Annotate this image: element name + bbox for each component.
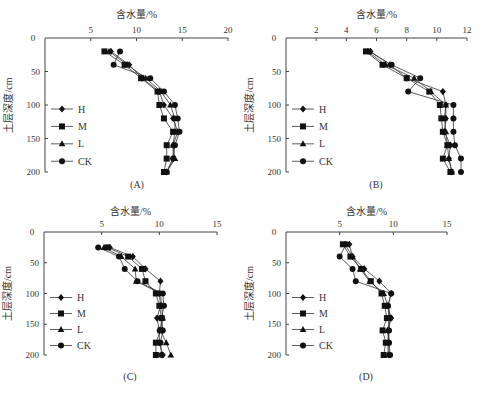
legend-item-m: M	[50, 308, 86, 319]
y-tick-label: 150	[268, 319, 282, 329]
x-axis-title: 含水量/%	[356, 8, 397, 20]
svg-text:H: H	[78, 104, 85, 115]
chart-panel-b: 02468101250100150200含水量/%土层深度/cmHMLCK(B)	[243, 8, 472, 191]
svg-text:L: L	[319, 324, 325, 335]
x-tick-label: 12	[463, 25, 472, 35]
svg-text:L: L	[78, 138, 84, 149]
series-markers-l	[106, 48, 178, 175]
legend-item-h: H	[51, 104, 85, 115]
y-tick-label: 100	[26, 289, 40, 299]
y-tick-label: 50	[31, 67, 41, 77]
svg-text:M: M	[77, 308, 86, 319]
series-line-m	[105, 51, 174, 172]
y-tick-label: 200	[27, 167, 41, 177]
legend-item-l: L	[292, 138, 325, 149]
legend-item-ck: CK	[51, 156, 93, 167]
series-line-m	[107, 247, 161, 355]
svg-text:0: 0	[30, 227, 35, 237]
y-tick-label: 50	[272, 67, 282, 77]
panel-label: (C)	[123, 371, 136, 383]
x-tick-label: 6	[374, 25, 379, 35]
svg-text:H: H	[319, 104, 326, 115]
y-tick-label: 50	[30, 258, 40, 268]
x-tick-label: 5	[89, 25, 94, 35]
svg-text:M: M	[78, 121, 87, 132]
svg-text:H: H	[319, 292, 326, 303]
y-tick-label: 200	[268, 350, 282, 360]
svg-text:M: M	[319, 308, 328, 319]
legend-item-ck: CK	[50, 340, 92, 351]
svg-text:CK: CK	[78, 156, 93, 167]
series-line-h	[111, 51, 178, 172]
series-line-l	[367, 51, 452, 172]
panel-label: (D)	[359, 371, 373, 383]
legend-item-h: H	[292, 104, 326, 115]
svg-text:CK: CK	[319, 340, 334, 351]
y-tick-label: 100	[27, 100, 41, 110]
x-axis-title: 含水量/%	[110, 205, 151, 217]
x-tick-label: 10	[432, 25, 442, 35]
panel-label: (A)	[130, 179, 144, 191]
legend-item-l: L	[50, 324, 83, 335]
y-tick-label: 150	[268, 134, 282, 144]
y-tick-label: 100	[268, 289, 282, 299]
figure-canvas: 0510152050100150200含水量/%土层深度/cmHMLCK(A)0…	[0, 0, 481, 396]
y-tick-label: 50	[272, 258, 282, 268]
x-tick-label: 10	[155, 219, 165, 229]
series-line-ck	[98, 247, 164, 355]
y-tick-label: 150	[26, 319, 40, 329]
y-axis-title: 土层深度/cm	[243, 77, 255, 132]
series-line-ck	[369, 51, 461, 172]
legend-item-h: H	[292, 292, 326, 303]
x-tick-label: 15	[213, 219, 223, 229]
svg-text:L: L	[319, 138, 325, 149]
y-tick-label: 200	[268, 167, 282, 177]
series-line-h	[371, 51, 452, 172]
x-axis-title: 含水量/%	[116, 8, 157, 20]
y-tick-label: 100	[268, 100, 282, 110]
x-tick-label: 10	[389, 219, 399, 229]
x-axis-title: 含水量/%	[346, 205, 387, 217]
y-axis-title: 土层深度/cm	[2, 77, 14, 132]
svg-text:0: 0	[272, 227, 277, 237]
legend-item-ck: CK	[292, 156, 334, 167]
y-tick-label: 200	[26, 350, 40, 360]
series-line-l	[109, 51, 175, 172]
legend-item-h: H	[50, 292, 84, 303]
series-markers-l	[364, 48, 455, 175]
series-line-m	[366, 51, 451, 172]
legend-item-l: L	[51, 138, 84, 149]
svg-text:0: 0	[272, 33, 277, 43]
svg-text:M: M	[319, 121, 328, 132]
x-tick-label: 4	[344, 25, 349, 35]
x-tick-label: 5	[99, 219, 104, 229]
x-tick-label: 8	[404, 25, 409, 35]
y-tick-label: 150	[27, 134, 41, 144]
svg-text:H: H	[77, 292, 84, 303]
legend-item-m: M	[292, 121, 328, 132]
chart-panel-a: 0510152050100150200含水量/%土层深度/cmHMLCK(A)	[2, 8, 233, 191]
series-markers-m	[363, 48, 453, 175]
y-axis-title: 土层深度/cm	[1, 266, 13, 321]
y-axis-title: 土层深度/cm	[243, 266, 255, 321]
x-tick-label: 20	[224, 25, 234, 35]
series-line-m	[343, 244, 387, 355]
series-markers-m	[104, 244, 164, 358]
legend-item-m: M	[292, 308, 328, 319]
x-tick-label: 2	[314, 25, 319, 35]
legend-item-l: L	[292, 324, 325, 335]
panel-label: (B)	[369, 179, 382, 191]
chart-panel-d: 05101550100150200含水量/%土层深度/cmHMLCK(D)	[243, 205, 452, 383]
svg-text:0: 0	[31, 33, 36, 43]
series-line-ck	[114, 51, 180, 172]
series-line-l	[345, 244, 389, 355]
svg-text:CK: CK	[77, 340, 92, 351]
x-tick-label: 15	[178, 25, 188, 35]
svg-text:CK: CK	[319, 156, 334, 167]
series-markers-m	[340, 241, 390, 358]
x-tick-label: 5	[337, 219, 342, 229]
legend-item-ck: CK	[292, 340, 334, 351]
x-tick-label: 15	[443, 219, 453, 229]
chart-panel-c: 05101550100150200含水量/%土层深度/cmHMLCK(C)	[1, 205, 222, 383]
svg-text:L: L	[77, 324, 83, 335]
